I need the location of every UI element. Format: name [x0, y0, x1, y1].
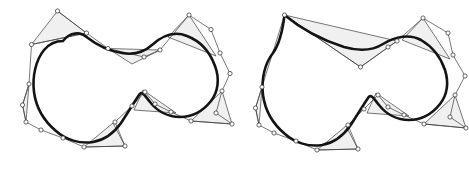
control-point[interactable] [158, 48, 162, 52]
control-point[interactable] [446, 31, 450, 35]
control-point[interactable] [346, 123, 350, 127]
control-point[interactable] [123, 144, 127, 148]
control-point[interactable] [189, 119, 193, 123]
control-point[interactable] [453, 93, 457, 97]
control-point[interactable] [143, 90, 147, 94]
control-point[interactable] [153, 102, 157, 106]
control-point[interactable] [315, 148, 319, 152]
control-point[interactable] [20, 103, 24, 107]
control-point[interactable] [358, 65, 362, 69]
control-point[interactable] [362, 107, 366, 111]
control-point[interactable] [218, 51, 222, 55]
control-point[interactable] [27, 82, 31, 86]
control-point[interactable] [106, 46, 110, 50]
control-point[interactable] [253, 106, 257, 110]
control-point[interactable] [395, 39, 399, 43]
control-point[interactable] [356, 147, 360, 151]
control-point[interactable] [376, 93, 380, 97]
control-point[interactable] [82, 145, 86, 149]
control-point[interactable] [421, 16, 425, 20]
figure-container [0, 0, 469, 177]
control-point[interactable] [272, 131, 276, 135]
control-point[interactable] [169, 110, 173, 114]
control-point[interactable] [451, 53, 455, 57]
control-point[interactable] [130, 104, 134, 108]
control-point[interactable] [214, 111, 218, 115]
control-point[interactable] [386, 105, 390, 109]
control-point[interactable] [84, 31, 88, 35]
control-point[interactable] [230, 122, 234, 126]
control-point[interactable] [29, 42, 33, 46]
control-point[interactable] [113, 120, 117, 124]
control-point[interactable] [386, 45, 390, 49]
curve-diagram-svg [0, 0, 469, 177]
control-point[interactable] [61, 136, 65, 140]
control-point[interactable] [142, 55, 146, 59]
control-point[interactable] [257, 123, 261, 127]
control-point[interactable] [422, 122, 426, 126]
control-point[interactable] [282, 13, 286, 17]
control-point[interactable] [228, 71, 232, 75]
control-point[interactable] [187, 13, 191, 17]
control-point[interactable] [260, 85, 264, 89]
control-point[interactable] [39, 128, 43, 132]
control-point[interactable] [448, 115, 452, 119]
control-point[interactable] [464, 126, 468, 130]
control-point[interactable] [55, 9, 59, 13]
control-point[interactable] [24, 120, 28, 124]
control-point[interactable] [209, 27, 213, 31]
control-point[interactable] [294, 139, 298, 143]
control-point[interactable] [402, 113, 406, 117]
control-point[interactable] [220, 89, 224, 93]
control-point[interactable] [463, 74, 467, 78]
